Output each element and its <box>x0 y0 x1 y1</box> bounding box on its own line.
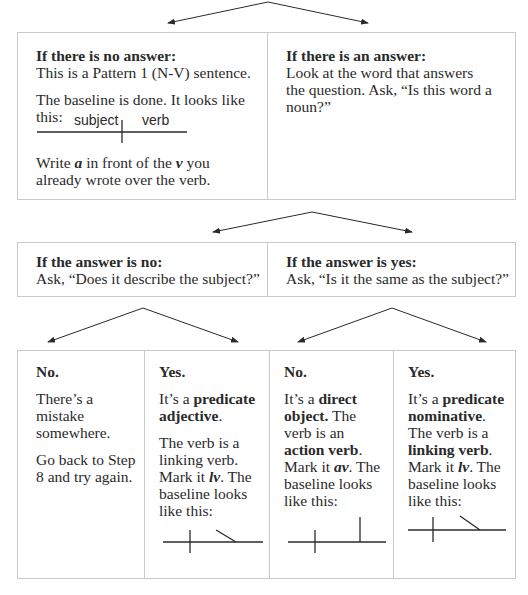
mark-v: v <box>176 154 183 171</box>
answer-no-cell: If the answer is no: Ask, “Does it descr… <box>18 243 267 296</box>
arrow-answer-no <box>213 212 312 232</box>
arrow-describe-no <box>48 308 143 342</box>
level2-box: If the answer is no: Ask, “Does it descr… <box>17 242 516 297</box>
predicate-nominative-text: It’s a predicate nominative. The verb is… <box>408 390 511 509</box>
direct-object-heading: No. <box>284 363 387 380</box>
no-answer-line3: Write a in front of the v you already wr… <box>36 154 236 188</box>
no-answer-cell: If there is no answer: This is a Pattern… <box>18 33 267 199</box>
linking-verb-text: The verb is a linking verb. Mark it lv. … <box>159 434 263 519</box>
answer-yes-heading: If the answer is yes: <box>286 253 515 270</box>
answer-heading: If there is an answer: <box>286 47 515 64</box>
direct-object-cell: No. It’s a direct object. The verb is an… <box>269 351 393 578</box>
predicate-adjective-text: It’s a predicate adjective. <box>159 390 263 424</box>
mistake-cell: No. There’s a mistake somewhere. Go back… <box>18 351 144 578</box>
no-answer-heading: If there is no answer: <box>36 47 267 64</box>
level1-box: If there is no answer: This is a Pattern… <box>17 32 516 200</box>
answer-yes-body: Ask, “Is it the same as the subject?” <box>286 270 515 287</box>
level3-box: No. There’s a mistake somewhere. Go back… <box>17 350 516 579</box>
answer-cell: If there is an answer: Look at the word … <box>267 33 515 199</box>
predicate-adjective-baseline-diagram <box>163 527 265 555</box>
direct-object-baseline-diagram <box>288 515 390 555</box>
predicate-adjective-heading: Yes. <box>159 363 263 380</box>
mark-av: av <box>334 458 349 475</box>
answer-no-body: Ask, “Does it describe the subject?” <box>36 270 267 287</box>
mark-lv: lv <box>209 468 220 485</box>
mark-lv: lv <box>458 458 469 475</box>
answer-no-heading: If the answer is no: <box>36 253 267 270</box>
arrow-no-answer <box>168 2 268 23</box>
predicate-nominative-heading: Yes. <box>408 363 511 380</box>
go-back-text: Go back to Step 8 and try again. <box>36 451 136 485</box>
arrow-answer <box>268 2 368 23</box>
subject-verb-baseline-diagram: subject verb <box>36 111 191 147</box>
mistake-text: There’s a mistake somewhere. <box>36 390 136 441</box>
no-answer-line1: This is a Pattern 1 (N-V) sentence. <box>36 64 267 81</box>
predicate-adjective-cell: Yes. It’s a predicate adjective. The ver… <box>144 351 269 578</box>
diagram-subject-label: subject <box>74 112 118 128</box>
predicate-nominative-baseline-diagram <box>408 514 510 544</box>
predicate-nominative-cell: Yes. It’s a predicate nominative. The ve… <box>393 351 515 578</box>
arrow-describe-yes <box>143 308 238 342</box>
arrow-same-no <box>298 308 392 342</box>
direct-object-text: It’s a direct object. The verb is an act… <box>284 390 387 509</box>
arrow-same-yes <box>392 308 486 342</box>
answer-yes-cell: If the answer is yes: Ask, “Is it the sa… <box>267 243 515 296</box>
arrow-answer-yes <box>312 212 412 232</box>
answer-body: Look at the word that answers the questi… <box>286 64 496 115</box>
diagram-verb-label: verb <box>142 112 169 128</box>
mistake-heading: No. <box>36 363 136 380</box>
